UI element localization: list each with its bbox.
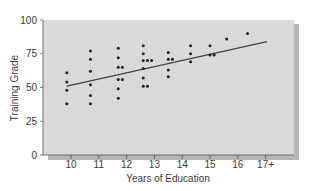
data-point	[209, 44, 212, 47]
data-point	[225, 37, 228, 40]
data-point	[117, 66, 120, 69]
data-point	[89, 58, 92, 61]
data-point	[167, 51, 170, 54]
data-point	[146, 85, 149, 88]
data-point	[189, 44, 192, 47]
data-point	[142, 44, 145, 47]
y-axis-ticks: 0255075100	[20, 15, 43, 161]
plot-area	[43, 20, 294, 155]
data-point	[89, 50, 92, 53]
x-tick-label: 17+	[257, 159, 274, 170]
data-point	[117, 97, 120, 100]
data-point	[189, 52, 192, 55]
data-point	[89, 70, 92, 73]
data-point	[167, 58, 170, 61]
x-tick-label: 13	[149, 159, 161, 170]
x-tick-label: 14	[177, 159, 189, 170]
data-point	[117, 47, 120, 50]
data-point	[65, 81, 68, 84]
data-point	[150, 59, 153, 62]
data-point	[209, 54, 212, 57]
data-point	[89, 83, 92, 86]
data-point	[117, 78, 120, 81]
y-tick-label: 100	[20, 15, 37, 26]
x-tick-label: 16	[232, 159, 244, 170]
data-point	[142, 52, 145, 55]
data-point	[167, 68, 170, 71]
data-point	[189, 60, 192, 63]
data-point	[65, 71, 68, 74]
data-point	[89, 94, 92, 97]
y-tick-label: 0	[31, 150, 37, 161]
data-point	[146, 59, 149, 62]
data-point	[213, 54, 216, 57]
data-point	[65, 89, 68, 92]
x-tick-label: 15	[204, 159, 216, 170]
x-tick-label: 10	[65, 159, 77, 170]
data-point	[171, 58, 174, 61]
y-tick-label: 50	[26, 82, 38, 93]
y-tick-label: 75	[26, 48, 38, 59]
scatter-chart: 0255075100 1011121314151617+ Years of Ed…	[0, 0, 309, 191]
data-point	[121, 78, 124, 81]
y-axis-label: Training Grade	[9, 54, 20, 121]
y-tick-label: 25	[26, 116, 38, 127]
data-point	[142, 85, 145, 88]
data-point	[142, 59, 145, 62]
data-point	[89, 102, 92, 105]
data-point	[117, 87, 120, 90]
x-tick-label: 12	[121, 159, 133, 170]
data-point	[142, 67, 145, 70]
data-point	[65, 102, 68, 105]
x-axis-label: Years of Education	[126, 173, 210, 184]
data-point	[246, 32, 249, 35]
data-point	[117, 56, 120, 59]
data-point	[167, 75, 170, 78]
x-tick-label: 11	[94, 159, 105, 170]
data-point	[142, 77, 145, 80]
data-point	[121, 66, 124, 69]
